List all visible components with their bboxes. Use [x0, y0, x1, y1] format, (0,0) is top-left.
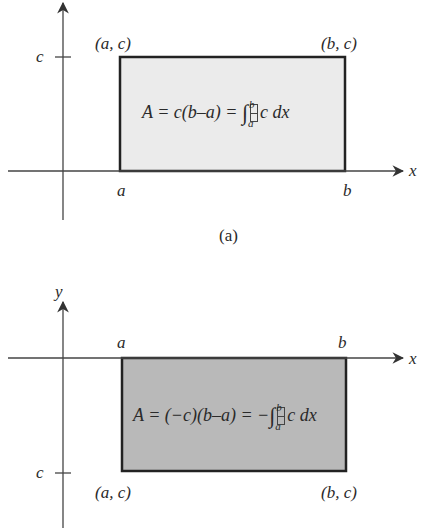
formula-lhs-b: A = (−c)(b–a) = −	[133, 405, 269, 425]
y-tick-label-c-b: c	[36, 464, 44, 481]
x-tick-label-b-b: b	[338, 334, 347, 351]
x-tick-label-b-a: b	[343, 182, 352, 199]
corner-label-bottom-left-b: (a, c)	[95, 484, 131, 501]
formula-lhs-a: A = c(b–a) =	[142, 102, 242, 122]
figure-caption-a: (a)	[219, 227, 238, 244]
lower-limit-b: a	[275, 421, 281, 432]
integral-limits-a: ba	[248, 103, 258, 125]
area-formula-a: A = c(b–a) = ∫bac dx	[142, 100, 289, 125]
x-axis-label-b: x	[409, 350, 417, 367]
x-tick-label-a-b: a	[117, 334, 126, 351]
x-tick-label-a-a: a	[117, 182, 126, 199]
integrand-a: c dx	[260, 102, 289, 122]
integrand-b: c dx	[287, 405, 316, 425]
area-formula-b: A = (−c)(b–a) = −∫bac dx	[133, 403, 317, 428]
y-tick-label-c-a: c	[36, 48, 44, 65]
corner-label-top-left-a: (a, c)	[95, 35, 131, 52]
diagram-canvas	[0, 0, 431, 530]
upper-limit-b: b	[276, 402, 282, 413]
corner-label-top-right-a: (b, c)	[321, 35, 357, 52]
lower-limit-a: a	[248, 118, 254, 129]
upper-limit-a: b	[249, 99, 255, 110]
x-axis-label-a: x	[409, 162, 417, 179]
y-axis-label-b: y	[55, 283, 63, 300]
integral-limits-b: ba	[275, 406, 285, 428]
corner-label-bottom-right-b: (b, c)	[321, 484, 357, 501]
